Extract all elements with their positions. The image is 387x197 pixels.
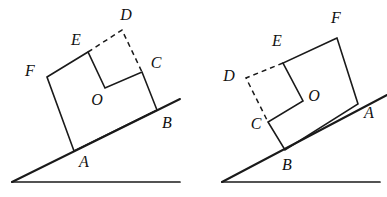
left-label-D: D xyxy=(119,6,132,23)
figure-root: A B C D E F O A B C D E F O xyxy=(0,0,387,197)
left-label-C: C xyxy=(151,54,162,71)
right-label-D: D xyxy=(222,67,235,84)
left-inclined-block: A B C D E F O xyxy=(12,6,180,182)
left-label-A: A xyxy=(78,153,89,170)
right-label-C: C xyxy=(251,115,262,132)
right-dashed-corner-d xyxy=(246,63,283,122)
right-label-E: E xyxy=(271,32,282,49)
left-label-F: F xyxy=(24,62,35,79)
right-label-A: A xyxy=(363,104,374,121)
left-label-O: O xyxy=(91,91,103,108)
left-label-B: B xyxy=(162,114,172,131)
right-label-F: F xyxy=(330,9,341,26)
geometry-diagram: A B C D E F O A B C D E F O xyxy=(0,0,387,197)
left-dashed-corner-d xyxy=(88,30,142,72)
right-label-O: O xyxy=(308,87,320,104)
left-label-E: E xyxy=(70,31,81,48)
right-inclined-block: A B C D E F O xyxy=(222,9,387,182)
right-label-B: B xyxy=(282,156,292,173)
